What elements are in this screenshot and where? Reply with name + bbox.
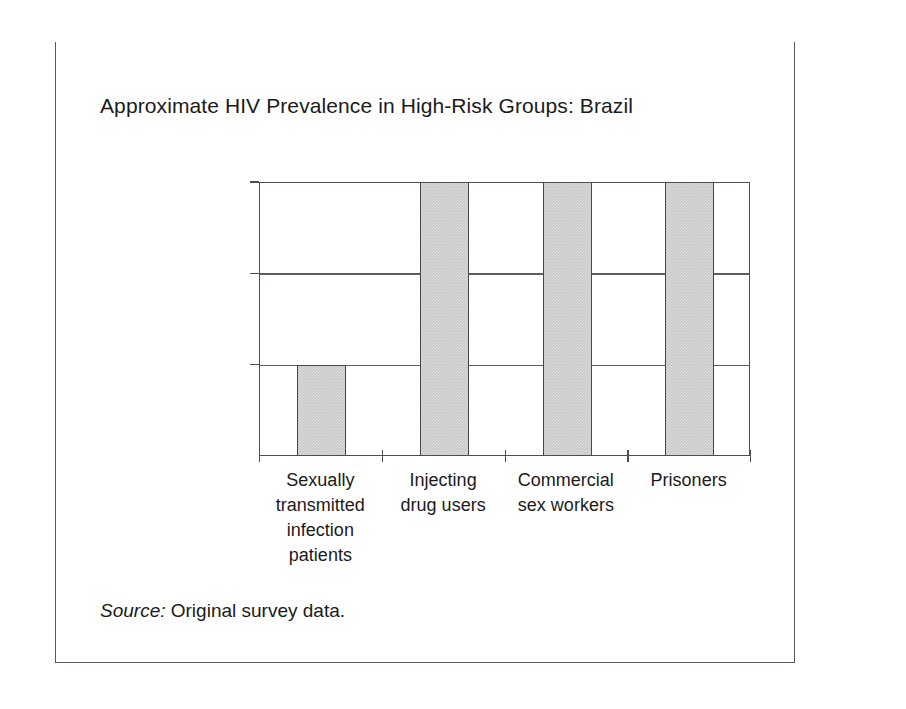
x-axis-label: Prisoners <box>627 468 750 568</box>
y-tick-mark <box>250 273 259 274</box>
x-tick-mark <box>627 450 628 462</box>
bar-slot <box>505 182 628 456</box>
bar-commercial-sex-workers[interactable] <box>543 182 592 456</box>
x-tick-mark <box>382 450 383 462</box>
x-axis-label: Commercialsex workers <box>505 468 628 568</box>
x-axis-label-line: patients <box>261 543 380 568</box>
x-tick-mark <box>259 450 260 462</box>
source-note: Source: Original survey data. <box>100 600 345 622</box>
x-axis-label-line: infection <box>261 518 380 543</box>
plot-area <box>259 182 750 456</box>
bar-injecting-drug-users[interactable] <box>420 182 469 456</box>
source-label: Source: <box>100 600 165 621</box>
bar-slot <box>627 182 750 456</box>
bar-prisoners[interactable] <box>665 182 714 456</box>
x-axis-label-line: transmitted <box>261 493 380 518</box>
x-axis-labels: SexuallytransmittedinfectionpatientsInje… <box>259 468 750 568</box>
x-tick-mark <box>505 450 506 462</box>
x-axis-label-line: Commercial <box>507 468 626 493</box>
y-tick-mark <box>250 364 259 365</box>
x-axis-label-line: Prisoners <box>629 468 748 493</box>
x-axis-label-line: drug users <box>384 493 503 518</box>
x-axis-label-line: sex workers <box>507 493 626 518</box>
y-tick-mark <box>250 181 259 182</box>
bar-slot <box>382 182 505 456</box>
x-axis-label: Sexuallytransmittedinfectionpatients <box>259 468 382 568</box>
x-axis-label-line: Injecting <box>384 468 503 493</box>
bar-sexually-transmitted-infection-patients[interactable] <box>297 365 346 456</box>
bars-layer <box>259 182 750 456</box>
x-axis-label: Injectingdrug users <box>382 468 505 568</box>
source-text: Original survey data. <box>171 600 345 621</box>
x-tick-mark <box>750 450 751 462</box>
bar-slot <box>259 182 382 456</box>
x-axis-label-line: Sexually <box>261 468 380 493</box>
